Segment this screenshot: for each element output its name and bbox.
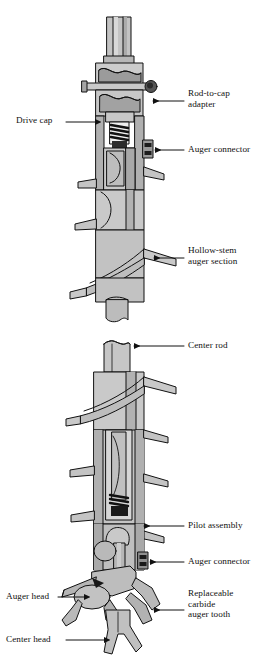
cutaway-barrel-mid <box>94 430 144 524</box>
drive-rod-stub <box>104 17 134 64</box>
label-auger-connector-upper: Auger connector <box>188 144 250 155</box>
label-rod-to-cap-adapter: Rod-to-cap adapter <box>188 88 230 109</box>
label-pilot-assembly: Pilot assembly <box>188 520 243 531</box>
auger-connector-upper-part <box>143 140 153 158</box>
center-rod <box>104 341 130 372</box>
figure-root: Rod-to-cap adapter Drive cap Auger conne… <box>0 0 276 659</box>
upper-section-stem-end <box>96 278 144 322</box>
label-replaceable-carbide-auger-tooth: Replaceable carbide auger tooth <box>188 588 233 620</box>
lower-assembly <box>62 341 176 654</box>
label-auger-head: Auger head <box>6 591 49 602</box>
label-drive-cap: Drive cap <box>16 115 52 126</box>
auger-connector-lower-part <box>138 552 148 569</box>
label-center-rod: Center rod <box>188 340 228 351</box>
auger-flight-stub-upper <box>75 219 96 230</box>
label-hollow-stem-auger-section: Hollow-stem auger section <box>188 245 237 266</box>
upper-assembly <box>70 17 176 322</box>
label-auger-connector-lower: Auger connector <box>188 556 250 567</box>
label-center-head: Center head <box>6 634 51 645</box>
center-head <box>104 610 142 654</box>
inner-stem-cutaway <box>104 148 135 190</box>
internal-spring-detent <box>106 112 134 148</box>
auger-head <box>62 566 136 609</box>
